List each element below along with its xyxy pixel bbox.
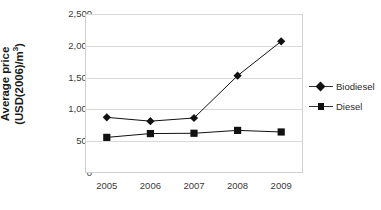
square-marker-icon [309,100,333,112]
gridline [86,46,302,47]
x-tick-label: 2005 [82,180,132,191]
plot-area [85,14,303,173]
x-tick-label: 2007 [169,180,219,191]
diamond-marker-icon [309,80,333,92]
y-tick-label: 1,500 [32,73,92,83]
gridline [86,78,302,79]
legend-item-biodiesel[interactable]: Biodiesel [309,76,381,96]
y-axis-title-line2: (USD(2006)/m3) [12,4,26,164]
y-tick-label: 2,000 [32,41,92,51]
y-tick-label: 500 [32,136,92,146]
y-tick-label: 2,500 [32,9,92,19]
legend-label-biodiesel: Biodiesel [333,81,375,92]
x-tick-label: 2009 [256,180,306,191]
y-axis-title-line1: Average price [0,47,11,121]
x-tick-label: 2006 [125,180,175,191]
y-axis-title-line2-close: ) [13,43,25,47]
y-tick-label: 1,000 [32,104,92,114]
gridline [86,141,302,142]
y-axis-title-line2-text: (USD(2006)/m [13,51,25,125]
chart-container: Average price (USD(2006)/m3) 05001,0001,… [0,0,381,210]
legend-label-diesel: Diesel [333,101,362,112]
gridline [86,14,302,15]
gridline [86,109,302,110]
y-axis-title-exponent: 3 [11,47,20,51]
legend-item-diesel[interactable]: Diesel [309,96,381,116]
x-tick-label: 2008 [213,180,263,191]
chart-legend: Biodiesel Diesel [309,76,381,116]
y-tick-label: 0 [32,168,92,178]
